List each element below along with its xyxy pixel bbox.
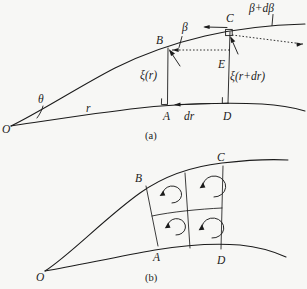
panel-a-label-theta: θ [38,93,44,105]
figure-container: O θ r B β C β+dβ E ξ(r) ξ(r+dr) A dr D (… [0,0,307,289]
panel-a-right-angle-d [222,98,228,104]
panel-a-right-angle-a [161,99,167,105]
panel-a-arrowhead-dotted-c [296,43,303,47]
panel-a-label-d: D [222,110,232,122]
panel-b-circulation-arrow-upper-right [200,176,226,197]
panel-a-dotted-tangent-c [232,35,303,44]
panel-a-label-e: E [217,58,225,70]
panel-a-label-r: r [86,102,91,114]
panel-a-segment-ba [168,48,169,104]
panel-a-label-xi-r-dr: ξ(r+dr) [230,70,265,83]
panel-a-arrowhead-into-c [230,36,235,43]
panel-b-outer-arc [45,160,288,271]
panel-b-circulation-arrow-lower-right [199,218,224,238]
panel-b-circulation-arrow-lower-left [165,219,186,235]
panel-a-arrow-dr-shaft [176,104,210,105]
panel-a-label-c: C [226,12,234,24]
panel-a-arrowhead-dotted-b [172,48,178,52]
panel-a-segment-cd [228,32,230,103]
panel-a-label-a: A [162,110,171,122]
panel-a-label-o: O [2,123,11,135]
panel-a-label-dr: dr [184,110,195,122]
panel-b-label-o: O [36,271,45,283]
panel-b-label-b: B [135,172,142,184]
panel-a-label-beta: β [181,21,188,34]
panel-a-arrowhead-top [203,25,209,29]
panel-a-group: O θ r B β C β+dβ E ξ(r) ξ(r+dr) A dr D (… [2,2,305,142]
panel-b-label-a: A [152,251,161,263]
panel-a-arrowhead-dr [174,102,181,106]
figure-svg: O θ r B β C β+dβ E ξ(r) ξ(r+dr) A dr D (… [0,0,307,289]
panel-a-tick-beta-dbeta [272,15,273,26]
panel-a-label-xi-r: ξ(r) [140,69,157,82]
panel-b-inner-arc [45,244,286,271]
panel-b-circulation-arrow-upper-left [160,186,182,203]
panel-b-caption: (b) [145,272,158,284]
panel-b-label-c: C [217,151,225,163]
panel-a-label-beta-dbeta: β+dβ [248,2,274,15]
panel-a-inner-arc [11,103,305,126]
panel-b-group: O B C A D (b) [36,151,288,284]
panel-b-label-d: D [216,254,226,266]
panel-a-label-b: B [156,34,163,46]
panel-a-caption: (a) [145,130,157,142]
